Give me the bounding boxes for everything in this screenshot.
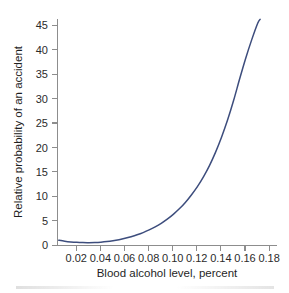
x-axis-title: Blood alcohol level, percent: [97, 267, 238, 279]
y-tick-label-35: 35: [36, 68, 48, 80]
y-tick-label-25: 25: [36, 117, 48, 129]
y-axis-ticks: [52, 25, 58, 245]
x-tick-label-0.16: 0.16: [234, 252, 255, 264]
chart-figure: 45 40 35 30 25 20 15 10 5 0 0.02 0.04: [0, 0, 289, 293]
y-tick-label-15: 15: [36, 166, 48, 178]
y-tick-label-10: 10: [36, 190, 48, 202]
x-axis-tick-labels: 0.02 0.04 0.06 0.08 0.10 0.12 0.14 0.16 …: [66, 252, 280, 264]
x-tick-label-0.10: 0.10: [162, 252, 183, 264]
y-tick-label-40: 40: [36, 44, 48, 56]
y-tick-label-0: 0: [42, 239, 48, 251]
x-tick-label-0.12: 0.12: [186, 252, 207, 264]
y-tick-label-30: 30: [36, 93, 48, 105]
y-axis-tick-labels: 45 40 35 30 25 20 15 10 5 0: [36, 19, 48, 251]
x-tick-label-0.02: 0.02: [66, 252, 87, 264]
y-axis-title: Relative probability of an accident: [12, 45, 24, 218]
line-chart: 45 40 35 30 25 20 15 10 5 0 0.02 0.04: [0, 0, 289, 293]
y-tick-label-5: 5: [42, 215, 48, 227]
x-tick-label-0.14: 0.14: [210, 252, 231, 264]
x-tick-label-0.06: 0.06: [114, 252, 135, 264]
x-axis-ticks: [76, 246, 269, 252]
x-tick-label-0.18: 0.18: [258, 252, 279, 264]
x-tick-label-0.08: 0.08: [138, 252, 159, 264]
data-series-line: [59, 19, 260, 242]
y-tick-label-20: 20: [36, 142, 48, 154]
page-edge-artifact: [16, 286, 274, 289]
x-tick-label-0.04: 0.04: [90, 252, 111, 264]
y-tick-label-45: 45: [36, 19, 48, 31]
